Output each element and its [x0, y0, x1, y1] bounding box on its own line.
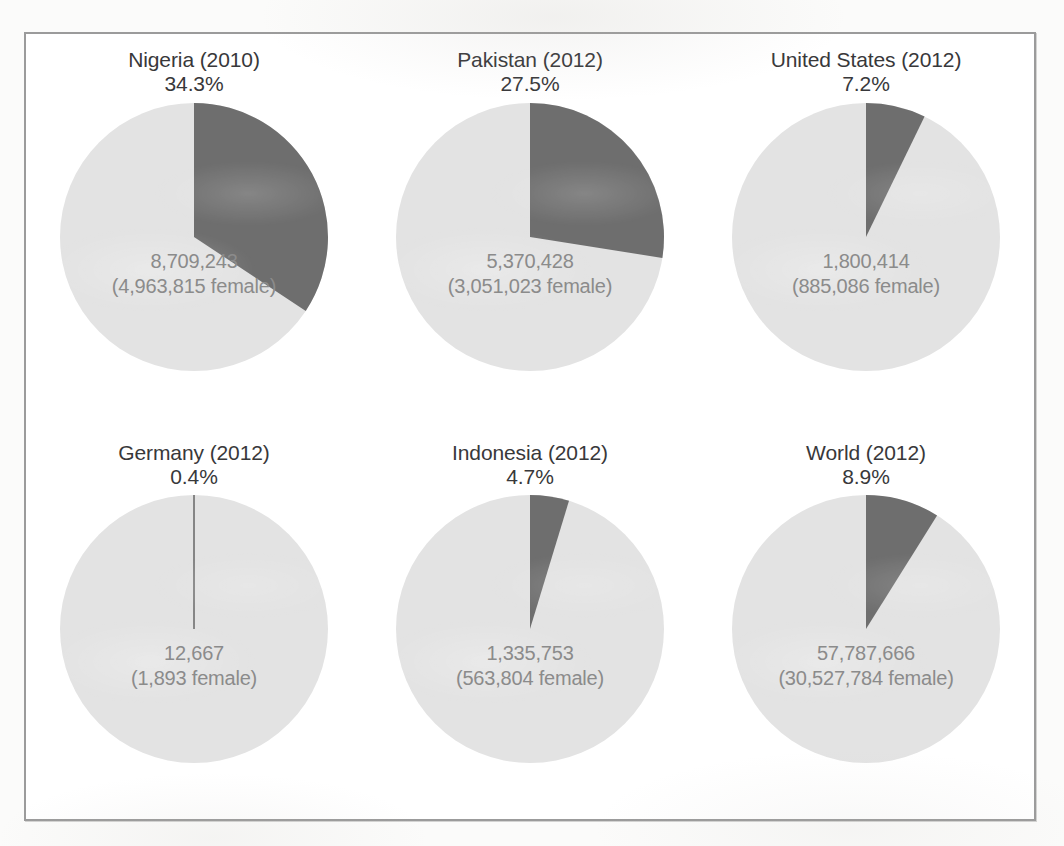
pie-chart-disc: 8,709,243(4,963,815 female)	[58, 101, 330, 373]
pie-chart-title: Nigeria (2010)	[128, 48, 260, 72]
pie-chart-svg	[58, 493, 330, 765]
figure-frame: Nigeria (2010)34.3%8,709,243(4,963,815 f…	[24, 32, 1036, 821]
pie-chart-title: Pakistan (2012)	[457, 48, 603, 72]
pie-chart-svg	[394, 493, 666, 765]
pie-chart-cell: United States (2012)7.2%1,800,414(885,08…	[698, 34, 1034, 427]
pie-chart-percent-label: 7.2%	[842, 72, 889, 96]
pie-slice-highlight	[530, 103, 664, 258]
pie-chart-disc: 5,370,428(3,051,023 female)	[394, 101, 666, 373]
pie-chart-title: United States (2012)	[771, 48, 962, 72]
pie-chart-cell: Indonesia (2012)4.7%1,335,753(563,804 fe…	[362, 427, 698, 820]
pie-chart-percent-label: 27.5%	[500, 72, 559, 96]
pie-chart-cell: Germany (2012)0.4%12,667(1,893 female)	[26, 427, 362, 820]
pie-chart-percent-label: 4.7%	[506, 465, 553, 489]
pie-chart-percent-label: 0.4%	[170, 465, 217, 489]
pie-chart-percent-label: 8.9%	[842, 465, 889, 489]
pie-chart-disc: 12,667(1,893 female)	[58, 493, 330, 765]
pie-chart-title: Indonesia (2012)	[452, 441, 608, 465]
pie-chart-svg	[394, 101, 666, 373]
pie-chart-disc: 1,335,753(563,804 female)	[394, 493, 666, 765]
pie-chart-svg	[58, 101, 330, 373]
pie-chart-svg	[730, 493, 1002, 765]
pie-chart-disc: 57,787,666(30,527,784 female)	[730, 493, 1002, 765]
pie-chart-svg	[730, 101, 1002, 373]
pie-chart-title: Germany (2012)	[118, 441, 270, 465]
pie-chart-disc: 1,800,414(885,086 female)	[730, 101, 1002, 373]
pie-chart-cell: Nigeria (2010)34.3%8,709,243(4,963,815 f…	[26, 34, 362, 427]
pie-chart-cell: Pakistan (2012)27.5%5,370,428(3,051,023 …	[362, 34, 698, 427]
pie-chart-percent-label: 34.3%	[164, 72, 223, 96]
pie-chart-cell: World (2012)8.9%57,787,666(30,527,784 fe…	[698, 427, 1034, 820]
pie-chart-grid: Nigeria (2010)34.3%8,709,243(4,963,815 f…	[26, 34, 1034, 819]
pie-chart-title: World (2012)	[806, 441, 926, 465]
